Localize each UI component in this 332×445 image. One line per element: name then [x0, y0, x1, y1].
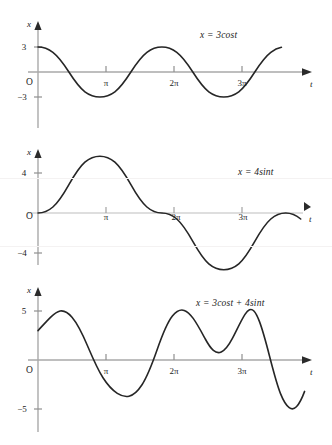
t-axis-arrowhead-icon — [302, 356, 312, 364]
plot-canvas-3cost: x t O 3 −3 π 2π 3π x = 3cost — [0, 0, 332, 140]
y-tick-label-negative: −4 — [17, 248, 27, 258]
t-tick-label-3pi: 3π — [237, 366, 247, 376]
t-axis-arrowhead-icon — [302, 68, 312, 76]
curve-3cost-plus-4sint — [38, 309, 305, 408]
y-axis-label: x — [26, 285, 31, 295]
y-axis-arrowhead-icon — [34, 287, 41, 296]
graph-panel-3cost-plus-4sint: x t O 5 −5 π 2π 3π x = 3cost + 4sint — [0, 280, 332, 445]
y-axis-arrowhead-icon — [34, 21, 41, 30]
t-tick-label-2pi: 2π — [169, 78, 179, 88]
equation-label-3cost-plus-4sint: x = 3cost + 4sint — [195, 298, 265, 308]
y-tick-label-positive: 3 — [22, 42, 27, 52]
y-axis-arrowhead-icon — [34, 149, 41, 158]
t-tick-label-2pi: 2π — [171, 212, 181, 222]
y-tick-label-negative: −3 — [17, 92, 27, 102]
plot-canvas-4sint: x t O 4 −4 π 2π 3π x = 4sint — [0, 140, 332, 280]
y-axis-label: x — [26, 147, 31, 157]
t-tick-label-pi: π — [104, 78, 109, 88]
t-axis-arrowhead-icon — [304, 202, 311, 211]
plot-canvas-3cost-plus-4sint: x t O 5 −5 π 2π 3π x = 3cost + 4sint — [0, 280, 332, 445]
t-tick-label-3pi: 3π — [238, 212, 248, 222]
y-tick-label-positive: 4 — [22, 168, 27, 178]
t-axis-label: t — [310, 79, 313, 89]
origin-label: O — [26, 77, 33, 87]
y-tick-label-negative: −5 — [17, 404, 27, 414]
origin-label: O — [26, 211, 33, 221]
origin-label: O — [26, 365, 33, 375]
t-axis-label: t — [310, 367, 313, 377]
equation-label-3cost: x = 3cost — [199, 30, 237, 40]
t-axis-label: t — [309, 214, 312, 224]
t-tick-label-pi: π — [104, 212, 109, 222]
graph-panel-4sint: x t O 4 −4 π 2π 3π x = 4sint — [0, 140, 332, 280]
y-axis-label: x — [26, 19, 31, 29]
t-tick-label-pi: π — [104, 366, 109, 376]
t-tick-label-3pi: 3π — [237, 78, 247, 88]
t-tick-label-2pi: 2π — [169, 366, 179, 376]
y-tick-label-positive: 5 — [22, 306, 27, 316]
graph-panel-3cost: x t O 3 −3 π 2π 3π x = 3cost — [0, 0, 332, 140]
equation-label-4sint: x = 4sint — [237, 167, 274, 177]
